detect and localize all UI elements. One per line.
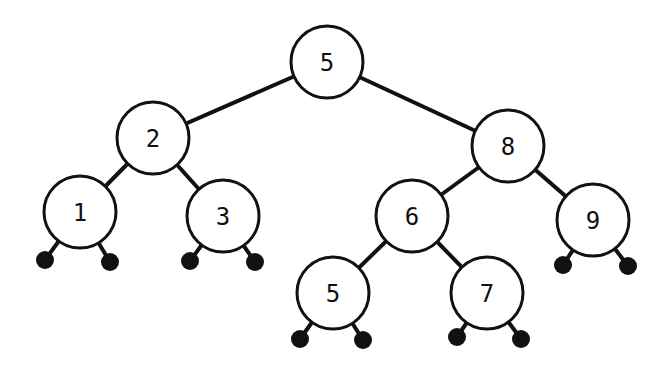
binary-tree-diagram: 528136957: [0, 0, 666, 368]
null-leaf-icon: [246, 253, 264, 271]
node-label: 5: [326, 280, 340, 308]
node-label: 8: [501, 133, 515, 161]
null-leaf-icon: [291, 330, 309, 348]
node-label: 6: [405, 203, 419, 231]
node-label: 1: [73, 199, 87, 227]
null-leaf-icon: [354, 331, 372, 349]
node-label: 2: [146, 125, 160, 153]
tree-node-n5leaf: 5: [297, 257, 369, 329]
tree-node-n3: 3: [187, 180, 259, 252]
null-leaf-icon: [36, 251, 54, 269]
node-label: 7: [480, 280, 494, 308]
node-label: 9: [586, 207, 600, 235]
tree-node-n1: 1: [44, 176, 116, 248]
tree-node-n7: 7: [451, 257, 523, 329]
null-leaf-icon: [554, 256, 572, 274]
null-leaf-icon: [448, 328, 466, 346]
null-leaf-icon: [101, 253, 119, 271]
tree-node-n6: 6: [376, 180, 448, 252]
node-label: 3: [216, 203, 230, 231]
tree-node-n5root: 5: [291, 26, 363, 98]
null-leaf-icon: [181, 252, 199, 270]
tree-node-n2: 2: [117, 102, 189, 174]
node-label: 5: [320, 49, 334, 77]
tree-node-n9: 9: [557, 184, 629, 256]
null-leaf-icon: [619, 257, 637, 275]
tree-node-n8: 8: [472, 110, 544, 182]
null-leaf-icon: [512, 330, 530, 348]
